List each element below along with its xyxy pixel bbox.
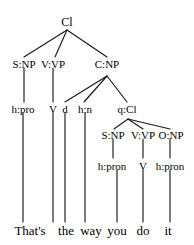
- vertical-stem-lines-group: [23, 68, 170, 222]
- branch-lines-group: [24, 30, 170, 129]
- node-head-pro: h:pro: [11, 104, 34, 115]
- node-determiner: d: [62, 104, 68, 115]
- node-subject-np: S:NP: [12, 59, 35, 70]
- branch-qualifier-cl-to-object-np: [128, 119, 170, 129]
- tree-edges-layer: [0, 0, 194, 245]
- node-inner-verb: V: [139, 161, 147, 172]
- leaf-word-thats: That's: [14, 224, 45, 237]
- branch-complement-np-to-determiner: [65, 76, 107, 102]
- leaf-word-the: the: [58, 224, 74, 237]
- leaf-word-way: way: [80, 224, 102, 237]
- syntax-tree-figure: Cl S:NP V:VP C:NP h:pro V d h:n q:Cl S:N…: [0, 0, 194, 245]
- branch-complement-np-to-head-n: [84, 76, 107, 102]
- node-verb: V: [49, 104, 57, 115]
- node-head-n: h:n: [78, 104, 92, 115]
- branch-complement-np-to-qualifier-cl: [107, 76, 127, 102]
- node-root-cl: Cl: [61, 16, 72, 28]
- node-inner-verb-vp: V:VP: [131, 130, 155, 141]
- node-object-head-pron: h:pron: [156, 161, 185, 172]
- node-complement-np: C:NP: [95, 59, 119, 70]
- node-object-np: O:NP: [158, 130, 183, 141]
- leaf-word-you: you: [107, 224, 127, 237]
- node-verb-vp: V:VP: [41, 59, 65, 70]
- node-qualifier-cl: q:Cl: [118, 104, 137, 115]
- node-inner-subject-np: S:NP: [101, 130, 124, 141]
- leaf-word-do: do: [137, 224, 150, 237]
- node-inner-head-pron: h:pron: [98, 161, 127, 172]
- leaf-word-it: it: [164, 224, 171, 237]
- branch-qualifier-cl-to-inner-subject-np: [114, 119, 128, 129]
- branch-root-to-complement-np: [67, 30, 107, 57]
